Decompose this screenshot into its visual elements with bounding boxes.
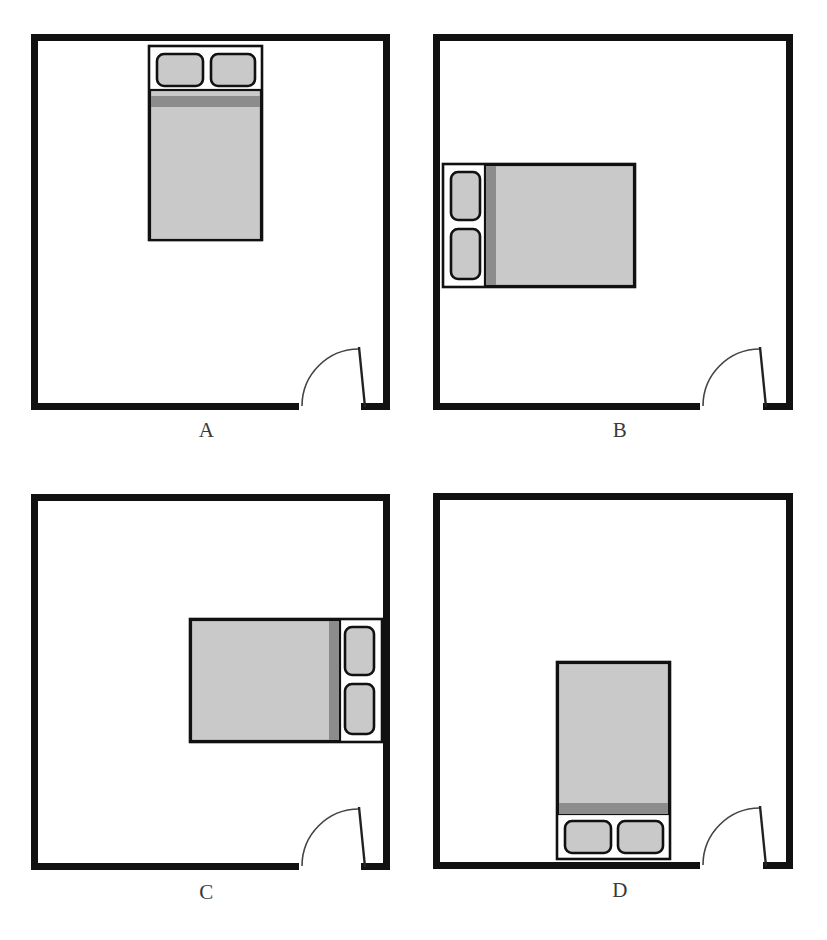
bed-mattress-c [191,620,340,741]
door-a[interactable] [302,347,365,407]
floor-plan-svg-d [413,459,827,940]
door-swing-arc-a [302,349,359,406]
floor-plan-panel-c[interactable]: C [0,460,413,940]
door-leaf-d [760,806,766,866]
door-leaf-c [359,807,365,867]
floor-plan-panel-d[interactable]: D [413,459,827,940]
bed-c[interactable] [190,619,382,742]
bed-blanket-band-d [559,803,668,814]
door-c[interactable] [302,807,365,867]
floor-plan-figure: A B [0,0,827,940]
floor-plan-panel-a[interactable]: A [0,0,413,470]
floor-plan-svg-a [0,0,413,470]
floor-plan-panel-b[interactable]: B [413,0,827,470]
bed-blanket-band-c [329,621,339,740]
bed-pillow-right-d [618,821,663,853]
bed-pillow-bottom-b [451,229,480,279]
door-swing-arc-b [703,349,760,406]
bed-pillow-top-c [345,627,374,675]
floor-plan-svg-b [413,0,827,470]
bed-pillow-left-d [565,821,611,853]
door-leaf-b [760,347,766,407]
bed-mattress-a [150,90,261,240]
door-swing-arc-d [703,808,760,865]
panel-label-a: A [0,418,413,443]
door-leaf-a [359,347,365,407]
bed-mattress-b [485,165,634,286]
panel-label-d: D [413,878,827,903]
bed-blanket-band-b [486,166,496,285]
bed-blanket-band-a [151,96,260,107]
bed-pillow-top-b [451,172,480,220]
bed-a[interactable] [149,46,262,240]
bed-d[interactable] [557,662,670,859]
bed-pillow-left-a [157,54,203,86]
panel-label-c: C [0,880,413,905]
floor-plan-svg-c [0,460,413,940]
bed-b[interactable] [443,164,635,287]
door-d[interactable] [703,806,766,866]
panel-label-b: B [413,418,827,443]
bed-pillow-bottom-c [345,684,374,734]
door-swing-arc-c [302,809,359,866]
bed-mattress-d [558,663,669,814]
door-b[interactable] [703,347,766,407]
bed-pillow-right-a [211,54,255,86]
